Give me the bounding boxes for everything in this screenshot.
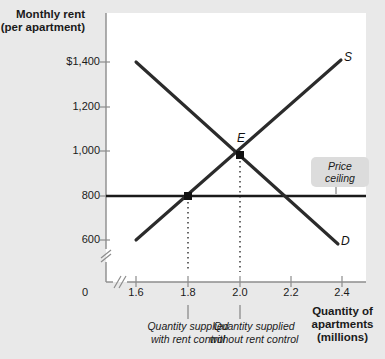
supply-curve: [136, 60, 341, 240]
annotation-right-line2: without rent control: [179, 333, 329, 346]
supply-curve-label: S: [344, 50, 352, 64]
price-ceiling-callout-line1: Price: [315, 160, 365, 172]
equilibrium-point-marker: [236, 151, 244, 159]
price-ceiling-callout: Price ceiling: [311, 157, 369, 187]
annotation-right-line1: Quantity supplied: [179, 320, 329, 333]
demand-curve-label: D: [341, 234, 350, 248]
quantity-supplied-point-marker: [184, 192, 192, 200]
supply-demand-chart: Monthly rent (per apartment) Quantity of…: [0, 0, 385, 359]
annotation-quantity-supplied-without-rent-control: Quantity supplied without rent control: [179, 320, 329, 346]
y-axis-break-mark-2: [101, 254, 111, 262]
y-axis-break-mark-1: [101, 250, 111, 258]
equilibrium-point-label: E: [237, 131, 245, 145]
price-ceiling-callout-line2: ceiling: [315, 172, 365, 184]
